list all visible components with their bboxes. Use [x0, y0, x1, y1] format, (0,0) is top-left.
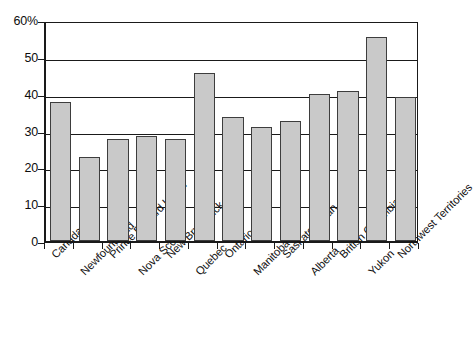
- bar-canada: [50, 102, 71, 241]
- y-tick-label-40: 40: [0, 88, 38, 102]
- bar-manitoba: [251, 127, 272, 241]
- bar-nova-scotia: [136, 136, 157, 241]
- y-tick-label-30: 30: [0, 125, 38, 139]
- y-tick-label-20: 20: [0, 161, 38, 175]
- bar-alberta: [309, 94, 330, 241]
- bar-quebec: [194, 73, 215, 241]
- y-tick-label-10: 10: [0, 198, 38, 212]
- bar-yukon: [366, 37, 387, 241]
- bar-british-columbia: [337, 91, 358, 241]
- bar-new-brunswick: [165, 139, 186, 241]
- y-tick-label-0: 0: [0, 235, 38, 249]
- bar-ontario: [222, 117, 243, 241]
- bar-newfoundland: [79, 157, 100, 241]
- plot-area: [44, 22, 418, 243]
- y-tick-label-60: 60%: [0, 14, 38, 28]
- x-tick-mark-0: [44, 243, 45, 249]
- bar-prince-edward-island: [107, 139, 128, 241]
- bar-northwest-territories: [395, 97, 416, 241]
- bar-saskatchewan: [280, 121, 301, 241]
- y-tick-label-50: 50: [0, 51, 38, 65]
- bar-series: [46, 23, 417, 241]
